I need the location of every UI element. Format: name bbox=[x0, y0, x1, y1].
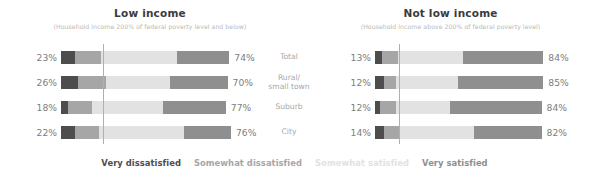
satisfied-percent-label: 76% bbox=[236, 126, 256, 139]
bar-row: 22%76% bbox=[0, 120, 300, 145]
bar-segment-somewhat-dissatisfied bbox=[384, 126, 400, 139]
dissatisfied-percent-label: 13% bbox=[351, 51, 371, 64]
bar-segment-somewhat-dissatisfied bbox=[75, 126, 99, 139]
dissatisfied-percent-label: 22% bbox=[37, 126, 57, 139]
bar-segment-very-dissatisfied bbox=[375, 76, 384, 89]
bar-row: 18%77% bbox=[0, 95, 300, 120]
panel-low-income: Low income (Household income 200% of fed… bbox=[0, 0, 300, 145]
legend-item-very-dissatisfied: Very dissatisfied bbox=[101, 158, 181, 168]
bar-row: 12%84% bbox=[312, 95, 589, 120]
bar-row: 14%82% bbox=[312, 120, 589, 145]
chart-legend: Very dissatisfied Somewhat dissatisfied … bbox=[0, 158, 589, 168]
bar-segment-very-dissatisfied bbox=[61, 76, 78, 89]
stacked-bar bbox=[61, 126, 231, 139]
reference-line-low-income bbox=[103, 44, 104, 144]
bar-segment-somewhat-satisfied bbox=[396, 101, 450, 114]
bar-row: 26%70% bbox=[0, 70, 300, 95]
category-label-city: City bbox=[266, 120, 312, 145]
chart-figure: Low income (Household income 200% of fed… bbox=[0, 0, 589, 183]
bar-rows-low-income: 23%74%26%70%18%77%22%76% bbox=[0, 45, 300, 145]
category-label-rural-line2: small town bbox=[268, 82, 309, 91]
dissatisfied-percent-label: 14% bbox=[351, 126, 371, 139]
stacked-bar bbox=[61, 51, 229, 64]
bar-segment-very-dissatisfied bbox=[375, 126, 384, 139]
satisfied-percent-label: 84% bbox=[548, 51, 568, 64]
category-label-suburb: Suburb bbox=[266, 95, 312, 120]
bar-rows-not-low-income: 13%84%12%85%12%84%14%82% bbox=[312, 45, 589, 145]
legend-item-somewhat-satisfied: Somewhat satisfied bbox=[315, 158, 409, 168]
bar-row: 12%85% bbox=[312, 70, 589, 95]
panel-title-low-income: Low income bbox=[0, 0, 300, 19]
satisfied-percent-label: 77% bbox=[231, 101, 251, 114]
bar-segment-somewhat-dissatisfied bbox=[75, 51, 101, 64]
category-label-total-text: Total bbox=[280, 53, 298, 62]
category-label-rural-small-town-text: Rural/ small town bbox=[268, 74, 309, 91]
bar-segment-very-dissatisfied bbox=[61, 51, 75, 64]
bar-row: 13%84% bbox=[312, 45, 589, 70]
category-label-suburb-text: Suburb bbox=[275, 103, 302, 112]
stacked-bar bbox=[61, 76, 228, 89]
bar-segment-very-dissatisfied bbox=[375, 51, 382, 64]
bar-segment-very-satisfied bbox=[177, 51, 229, 64]
bar-row: 23%74% bbox=[0, 45, 300, 70]
panel-subtitle-low-income: (Household income 200% of federal povert… bbox=[0, 19, 300, 30]
dissatisfied-percent-label: 26% bbox=[37, 76, 57, 89]
category-label-total: Total bbox=[266, 45, 312, 70]
bar-segment-very-satisfied bbox=[170, 76, 227, 89]
bar-segment-very-dissatisfied bbox=[61, 126, 75, 139]
bar-segment-somewhat-dissatisfied bbox=[380, 101, 396, 114]
panel-subtitle-not-low-income: (Household income above 200% of federal … bbox=[312, 19, 589, 30]
bar-segment-very-dissatisfied bbox=[61, 101, 68, 114]
bar-segment-somewhat-dissatisfied bbox=[68, 101, 92, 114]
bar-segment-somewhat-satisfied bbox=[396, 76, 458, 89]
bar-segment-very-satisfied bbox=[450, 101, 542, 114]
satisfied-percent-label: 70% bbox=[233, 76, 253, 89]
dissatisfied-percent-label: 18% bbox=[37, 101, 57, 114]
bar-segment-very-satisfied bbox=[463, 51, 543, 64]
bar-segment-very-satisfied bbox=[184, 126, 231, 139]
satisfied-percent-label: 84% bbox=[547, 101, 567, 114]
bar-segment-somewhat-satisfied bbox=[99, 126, 184, 139]
satisfied-percent-label: 85% bbox=[548, 76, 568, 89]
bar-segment-somewhat-satisfied bbox=[399, 126, 474, 139]
satisfied-percent-label: 82% bbox=[547, 126, 567, 139]
bar-segment-somewhat-satisfied bbox=[398, 51, 464, 64]
legend-item-somewhat-dissatisfied: Somewhat dissatisfied bbox=[194, 158, 302, 168]
satisfied-percent-label: 74% bbox=[234, 51, 254, 64]
bar-segment-very-satisfied bbox=[458, 76, 543, 89]
dissatisfied-percent-label: 23% bbox=[37, 51, 57, 64]
bar-segment-somewhat-dissatisfied bbox=[384, 76, 396, 89]
panel-title-not-low-income: Not low income bbox=[312, 0, 589, 19]
bar-segment-somewhat-dissatisfied bbox=[382, 51, 398, 64]
bar-segment-very-satisfied bbox=[474, 126, 542, 139]
bar-segment-very-satisfied bbox=[163, 101, 225, 114]
category-label-city-text: City bbox=[282, 128, 297, 137]
dissatisfied-percent-label: 12% bbox=[351, 101, 371, 114]
reference-line-not-low-income bbox=[399, 44, 400, 144]
legend-item-very-satisfied: Very satisfied bbox=[422, 158, 488, 168]
stacked-bar bbox=[61, 101, 226, 114]
category-label-rural-small-town: Rural/ small town bbox=[266, 70, 312, 95]
category-axis-labels: Total Rural/ small town Suburb City bbox=[266, 45, 312, 145]
panel-not-low-income: Not low income (Household income above 2… bbox=[312, 0, 589, 145]
bar-segment-somewhat-satisfied bbox=[106, 76, 170, 89]
bar-segment-somewhat-satisfied bbox=[101, 51, 177, 64]
dissatisfied-percent-label: 12% bbox=[351, 76, 371, 89]
